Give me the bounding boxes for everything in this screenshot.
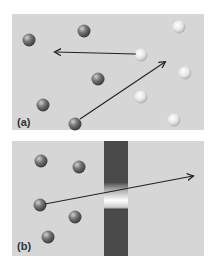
- particle: [73, 161, 86, 174]
- particle: [35, 155, 48, 168]
- dark-particle: [23, 34, 36, 47]
- dark-particle: [78, 25, 91, 38]
- dark-particle: [37, 99, 50, 112]
- dark-particle: [69, 118, 82, 131]
- light-particle: [168, 114, 181, 127]
- light-particle: [135, 49, 148, 62]
- barrier-opening: [104, 183, 128, 210]
- particle: [69, 211, 82, 224]
- particle: [34, 199, 47, 212]
- panel-b-label: (b): [17, 240, 31, 252]
- arrow-icon: [55, 52, 136, 54]
- light-particle: [179, 67, 192, 80]
- particle: [42, 231, 55, 244]
- arrow-icon: [80, 62, 165, 119]
- light-particle: [173, 21, 186, 34]
- dark-particle: [92, 73, 105, 86]
- diagram-scene: [0, 0, 210, 268]
- panel-a-label: (a): [17, 116, 30, 128]
- light-particle: [135, 91, 148, 104]
- barrier: [104, 141, 128, 256]
